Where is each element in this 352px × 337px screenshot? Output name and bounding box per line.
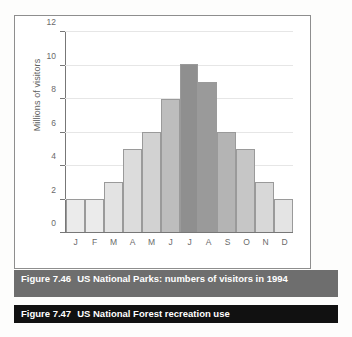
x-tick-label-J-0: J xyxy=(66,237,85,247)
gridline-0 xyxy=(65,232,293,233)
bar-slot xyxy=(104,32,123,232)
bar-J-0 xyxy=(66,199,85,232)
bar-A-7 xyxy=(198,82,217,232)
x-tick-label-J-6: J xyxy=(180,237,199,247)
x-tick-label-A-7: A xyxy=(199,237,218,247)
bar-slot xyxy=(180,32,199,232)
caption-747-number: Figure 7.47 xyxy=(21,308,71,320)
bar-slot xyxy=(217,32,236,232)
x-tick-label-M-4: M xyxy=(142,237,161,247)
bar-S-8 xyxy=(217,132,236,232)
bar-slot xyxy=(161,32,180,232)
caption-747-text: US National Forest recreation use xyxy=(77,308,230,320)
bar-slot xyxy=(236,32,255,232)
bar-series xyxy=(66,32,293,232)
y-tick-2 xyxy=(60,199,65,200)
chart-panel-figure-746: Millions of visitors 024681012 JFMAMJJAS… xyxy=(14,15,311,269)
bar-F-1 xyxy=(85,199,104,232)
figure-page: Millions of visitors 024681012 JFMAMJJAS… xyxy=(0,0,352,337)
x-tick-label-M-2: M xyxy=(104,237,123,247)
bar-slot xyxy=(123,32,142,232)
bar-slot xyxy=(274,32,293,232)
x-axis-tick-labels: JFMAMJJASOND xyxy=(66,237,294,247)
y-tick-8 xyxy=(60,98,65,99)
y-axis-title: Millions of visitors xyxy=(32,35,42,155)
bar-M-4 xyxy=(142,132,161,232)
y-tick-4 xyxy=(60,165,65,166)
x-tick-label-D-11: D xyxy=(275,237,294,247)
y-tick-0 xyxy=(60,232,65,233)
y-tick-label-4: 4 xyxy=(51,151,56,161)
bar-J-5 xyxy=(161,99,180,232)
x-tick-label-S-8: S xyxy=(218,237,237,247)
bar-slot xyxy=(66,32,85,232)
x-tick-label-J-5: J xyxy=(161,237,180,247)
y-tick-label-12: 12 xyxy=(47,17,56,27)
bar-J-6 xyxy=(180,64,199,232)
bar-slot xyxy=(198,32,217,232)
bar-O-9 xyxy=(236,149,255,232)
bar-D-11 xyxy=(274,199,293,232)
bar-M-2 xyxy=(104,182,123,232)
plot-wrapper: Millions of visitors 024681012 JFMAMJJAS… xyxy=(15,16,310,268)
bar-A-3 xyxy=(123,149,142,232)
plot-area: 024681012 xyxy=(65,32,293,233)
y-tick-12 xyxy=(60,31,65,32)
y-tick-label-10: 10 xyxy=(47,51,56,61)
y-tick-label-2: 2 xyxy=(51,185,56,195)
caption-figure-746: Figure 7.46US National Parks: numbers of… xyxy=(14,270,338,297)
x-tick-label-F-1: F xyxy=(85,237,104,247)
y-tick-label-6: 6 xyxy=(51,118,56,128)
x-tick-label-O-9: O xyxy=(237,237,256,247)
x-tick-label-N-10: N xyxy=(256,237,275,247)
bar-N-10 xyxy=(255,182,274,232)
bar-slot xyxy=(255,32,274,232)
bar-slot xyxy=(142,32,161,232)
caption-figure-747: Figure 7.47US National Forest recreation… xyxy=(14,305,338,323)
caption-746-number: Figure 7.46 xyxy=(21,273,71,284)
y-tick-10 xyxy=(60,65,65,66)
y-tick-label-0: 0 xyxy=(51,218,56,228)
y-tick-label-8: 8 xyxy=(51,84,56,94)
caption-746-text: US National Parks: numbers of visitors i… xyxy=(77,273,288,284)
bar-slot xyxy=(85,32,104,232)
x-tick-label-A-3: A xyxy=(123,237,142,247)
y-tick-6 xyxy=(60,132,65,133)
